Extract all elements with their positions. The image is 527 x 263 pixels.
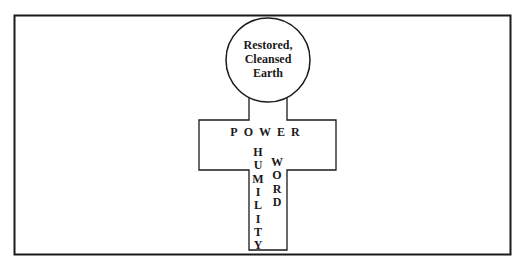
diagram-canvas: Restored, Cleansed Earth POWER HUMILITY …	[0, 0, 527, 263]
word-letter: O	[272, 168, 281, 182]
word-letter: W	[271, 155, 283, 169]
cross-shape	[199, 98, 336, 250]
circle-line-2: Cleansed	[245, 52, 292, 66]
humility-letter: I	[256, 185, 261, 199]
word-letter: D	[273, 195, 282, 209]
humility-letter: L	[254, 198, 262, 212]
humility-letter: U	[254, 158, 263, 172]
stem-right-vertical-text: WORD	[271, 155, 283, 209]
humility-letter: M	[252, 172, 263, 186]
crossbar-label: POWER	[230, 125, 305, 139]
humility-letter: T	[254, 225, 262, 239]
circle-line-1: Restored,	[244, 38, 293, 52]
humility-letter: I	[256, 212, 261, 226]
stem-left-vertical-text: HUMILITY	[252, 145, 263, 252]
humility-letter: H	[253, 145, 263, 159]
circle-line-3: Earth	[253, 66, 283, 80]
word-letter: R	[273, 182, 282, 196]
humility-letter: Y	[254, 238, 263, 252]
